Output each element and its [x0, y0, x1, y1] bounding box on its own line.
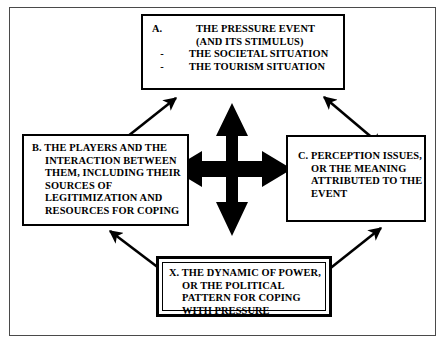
center-four-way-arrow [172, 103, 292, 236]
node-box-c: C. PERCEPTION ISSUES, OR THE MEANING ATT… [286, 135, 426, 222]
node-box-b: B. THE PLAYERS AND THE INTERACTION BETWE… [22, 134, 189, 226]
node-box-x: X. THE DYNAMIC OF POWER, OR THE POLITICA… [156, 256, 332, 317]
diagram-canvas: A. THE PRESSURE EVENT (AND ITS STIMULUS)… [0, 0, 446, 345]
node-box-a: A. THE PRESSURE EVENT (AND ITS STIMULUS)… [141, 14, 345, 90]
node-a-marker: A. [150, 23, 196, 48]
node-a-text: THE PRESSURE EVENT (AND ITS STIMULUS) [196, 23, 315, 48]
node-b-text: B. THE PLAYERS AND THE INTERACTION BETWE… [24, 136, 187, 218]
node-x-text: X. THE DYNAMIC OF POWER, OR THE POLITICA… [161, 261, 327, 317]
node-a-bullets: - THE SOCIETAL SITUATION - THE TOURISM S… [143, 48, 343, 73]
node-a-bullet-dash: - [143, 48, 189, 61]
node-c-text: C. PERCEPTION ISSUES, OR THE MEANING ATT… [288, 137, 424, 200]
diagram-outer-frame: A. THE PRESSURE EVENT (AND ITS STIMULUS)… [9, 7, 436, 336]
node-a-bullet-dash: - [143, 61, 189, 74]
